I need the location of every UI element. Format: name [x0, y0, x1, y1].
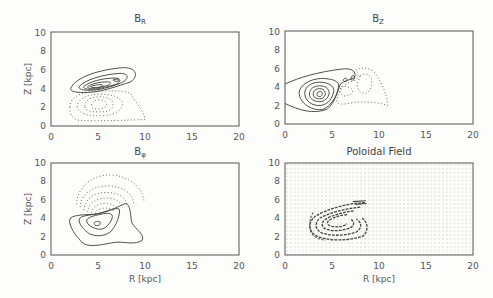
svg-text:2: 2	[40, 102, 46, 112]
svg-text:2: 2	[40, 232, 46, 242]
svg-text:20: 20	[467, 261, 479, 271]
vector-grid	[285, 163, 473, 255]
svg-text:8: 8	[274, 176, 280, 186]
svg-text:8: 8	[40, 46, 46, 56]
svg-text:5: 5	[329, 261, 335, 271]
svg-text:4: 4	[40, 84, 46, 94]
svg-text:4: 4	[274, 82, 280, 92]
svg-text:0: 0	[282, 130, 288, 140]
svg-text:4: 4	[40, 213, 46, 223]
svg-text:10: 10	[373, 261, 385, 271]
contours	[285, 68, 387, 111]
svg-text:6: 6	[274, 195, 280, 205]
svg-text:15: 15	[186, 132, 197, 142]
svg-text:20: 20	[233, 132, 245, 142]
svg-text:6: 6	[40, 195, 46, 205]
svg-text:8: 8	[40, 176, 46, 186]
svg-text:2: 2	[274, 101, 280, 111]
panel-title-bz: BZ	[372, 13, 384, 26]
svg-text:10: 10	[269, 27, 281, 37]
panel-poloidal: Poloidal Field 0 2 4 6 8 10 0 5 10 15 20…	[269, 146, 479, 284]
contours	[70, 175, 145, 246]
svg-text:0: 0	[274, 119, 280, 129]
panel-bz: BZ 0 2 4 6 8 10 0 5 10 15 20	[269, 13, 479, 140]
svg-text:10: 10	[269, 158, 281, 168]
x-ticks: 0 5 10 15 20	[282, 130, 479, 140]
svg-text:15: 15	[420, 261, 431, 271]
y-axis-label: Z [kpc]	[23, 63, 33, 95]
x-axis-label: R [kpc]	[363, 274, 395, 284]
panel-bphi: Bφ 0 2 4 6 8 10 0 5 10 15 20 R [kpc] Z […	[23, 146, 245, 284]
svg-text:0: 0	[282, 261, 288, 271]
svg-text:5: 5	[95, 261, 101, 271]
plot-area	[51, 163, 239, 255]
panel-br: BR 0 2 4 6 8 10 0 5 10 15 20 Z [kpc]	[23, 13, 245, 142]
plot-area	[285, 31, 473, 124]
svg-text:5: 5	[95, 132, 101, 142]
x-axis-label: R [kpc]	[129, 274, 161, 284]
contours	[70, 68, 145, 121]
svg-text:15: 15	[420, 130, 431, 140]
svg-text:8: 8	[274, 45, 280, 55]
x-ticks: 0 5 10 15 20	[48, 261, 245, 271]
panel-title-poloidal: Poloidal Field	[347, 146, 412, 157]
svg-text:10: 10	[373, 130, 385, 140]
y-ticks: 0 2 4 6 8 10	[269, 158, 281, 260]
y-axis-label: Z [kpc]	[23, 193, 33, 225]
svg-text:0: 0	[48, 132, 54, 142]
svg-text:10: 10	[35, 158, 47, 168]
svg-text:20: 20	[467, 130, 479, 140]
y-ticks: 0 2 4 6 8 10	[35, 158, 47, 260]
svg-text:20: 20	[233, 261, 245, 271]
svg-text:4: 4	[274, 213, 280, 223]
svg-text:10: 10	[139, 261, 151, 271]
svg-text:2: 2	[274, 232, 280, 242]
svg-text:15: 15	[186, 261, 197, 271]
svg-text:0: 0	[274, 250, 280, 260]
svg-text:0: 0	[40, 250, 46, 260]
svg-text:6: 6	[40, 65, 46, 75]
svg-text:0: 0	[48, 261, 54, 271]
panel-title-bphi: Bφ	[134, 146, 146, 159]
svg-text:0: 0	[40, 121, 46, 131]
svg-text:10: 10	[139, 132, 151, 142]
y-ticks: 0 2 4 6 8 10	[269, 27, 281, 130]
x-ticks: 0 5 10 15 20	[282, 261, 479, 271]
svg-text:10: 10	[35, 28, 47, 38]
panel-title-br: BR	[134, 13, 146, 26]
figure: BR 0 2 4 6 8 10 0 5 10 15 20 Z [kpc]	[0, 0, 493, 298]
svg-text:6: 6	[274, 64, 280, 74]
svg-text:5: 5	[329, 130, 335, 140]
y-ticks: 0 2 4 6 8 10	[35, 28, 47, 132]
x-ticks: 0 5 10 15 20	[48, 132, 245, 142]
